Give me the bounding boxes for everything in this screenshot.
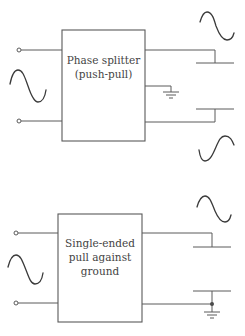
ground-icon xyxy=(204,312,220,318)
ground-icon xyxy=(163,92,179,98)
inverted-sine-wave-icon xyxy=(199,136,234,161)
output-sine-wave-icon xyxy=(197,196,231,222)
center-tap-wire xyxy=(145,86,171,92)
label-line: pull against xyxy=(58,250,142,264)
bottom-input-terminals xyxy=(14,231,58,305)
output-sine-wave-icon xyxy=(200,12,234,40)
terminal-icon xyxy=(17,119,21,123)
terminal-icon xyxy=(17,48,21,52)
phase-splitter-label: Phase splitter (push-pull) xyxy=(62,53,145,81)
label-line: (push-pull) xyxy=(62,67,145,81)
input-sine-wave-icon xyxy=(10,70,46,102)
single-ended-label: Single-ended pull against ground xyxy=(58,236,142,278)
terminal-icon xyxy=(14,231,18,235)
label-line: Phase splitter xyxy=(62,53,145,67)
junction-dot-icon xyxy=(210,302,214,306)
phase-splitter-box xyxy=(62,30,145,141)
top-output-wire xyxy=(142,233,212,247)
input-sine-wave-icon xyxy=(8,255,43,284)
top-input-terminals xyxy=(17,48,62,123)
diagram-svg xyxy=(0,0,245,336)
terminal-icon xyxy=(14,301,18,305)
top-output-wire xyxy=(145,50,215,63)
label-line: Single-ended xyxy=(58,236,142,250)
bottom-output-wire xyxy=(145,109,215,122)
diagram-canvas: Phase splitter (push-pull) Single-ended … xyxy=(0,0,245,336)
phase-splitter-diagram xyxy=(10,12,234,161)
label-line: ground xyxy=(58,264,142,278)
